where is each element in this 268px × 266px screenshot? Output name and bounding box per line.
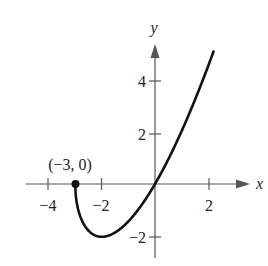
y-tick-label: −2: [129, 229, 146, 246]
x-axis-label: x: [255, 175, 263, 192]
y-tick-label: 2: [138, 126, 146, 143]
point-annotation: (−3, 0): [48, 156, 92, 174]
x-tick-label: −4: [39, 197, 56, 214]
function-graph: −4 −2 2 4 2 −2 x y (−3, 0): [0, 0, 268, 266]
y-axis-label: y: [148, 19, 158, 37]
y-axis-arrow-icon: [151, 44, 160, 58]
x-tick-label: −2: [92, 197, 109, 214]
x-tick-label: 2: [205, 197, 213, 214]
x-axis-arrow-icon: [236, 180, 250, 189]
y-tick-label: 4: [138, 73, 146, 90]
endpoint-dot: [72, 180, 80, 188]
